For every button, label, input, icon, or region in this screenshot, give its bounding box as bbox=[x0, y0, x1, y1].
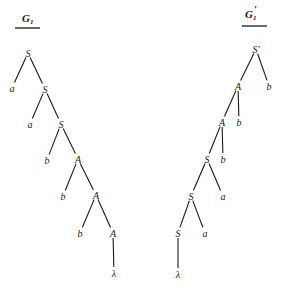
tree-node: b bbox=[78, 228, 83, 239]
tree-node: a bbox=[203, 228, 208, 239]
tree-node: S bbox=[59, 119, 64, 130]
tree-node: S bbox=[176, 228, 181, 239]
tree-edge bbox=[113, 238, 114, 267]
tree-edge bbox=[209, 127, 220, 154]
tree-edge bbox=[47, 94, 58, 119]
tree-edge bbox=[30, 58, 42, 84]
tree-node: b bbox=[45, 155, 50, 166]
tree-edge bbox=[193, 164, 205, 191]
tree-node: A bbox=[218, 117, 226, 128]
tree-edge bbox=[98, 200, 111, 228]
tree-node: S bbox=[26, 48, 31, 59]
tree-node: S bbox=[205, 154, 210, 165]
tree-node: λ bbox=[111, 268, 117, 279]
tree-node: a bbox=[28, 119, 33, 130]
tree-edge bbox=[238, 91, 239, 116]
tree-node: A bbox=[109, 228, 117, 239]
tree-node: b bbox=[267, 81, 272, 92]
tree-edge bbox=[241, 53, 254, 80]
tree-edge bbox=[32, 94, 43, 119]
tree-edge bbox=[224, 91, 236, 117]
tree-edge bbox=[63, 128, 75, 153]
tree-edge bbox=[222, 127, 223, 153]
tree-edge bbox=[49, 129, 59, 155]
tree-node: b bbox=[237, 117, 242, 128]
tree-edge bbox=[14, 58, 25, 83]
tree-node: A bbox=[74, 154, 82, 165]
tree-edge bbox=[193, 201, 203, 228]
tree-node: S bbox=[189, 191, 194, 202]
tree-node: S' bbox=[252, 44, 260, 55]
tree-edge bbox=[65, 164, 76, 191]
tree-node: b bbox=[221, 154, 226, 165]
tree-edge bbox=[180, 201, 189, 228]
parse-tree-left: G1SaSaSbAbAbAλ bbox=[10, 12, 117, 279]
tree-node: S bbox=[43, 84, 48, 95]
tree-edge bbox=[209, 164, 221, 191]
tree-edge bbox=[258, 54, 267, 81]
tree-node: A bbox=[92, 190, 100, 201]
tree-node: b bbox=[61, 191, 66, 202]
tree-node: a bbox=[10, 83, 15, 94]
tree-edge bbox=[80, 163, 93, 189]
tree-node: a bbox=[221, 191, 226, 202]
tree-node: λ bbox=[175, 269, 181, 280]
parse-tree-diagram: G1SaSaSbAbAbAλG1'S'AbAbSbSaSaλ bbox=[0, 0, 283, 289]
parse-tree-right: G1'S'AbAbSbSaSaλ bbox=[175, 3, 272, 280]
tree-node: A bbox=[234, 81, 242, 92]
tree-edge bbox=[82, 200, 94, 228]
tree-title: G1' bbox=[245, 3, 257, 22]
tree-title: G1 bbox=[22, 12, 33, 26]
